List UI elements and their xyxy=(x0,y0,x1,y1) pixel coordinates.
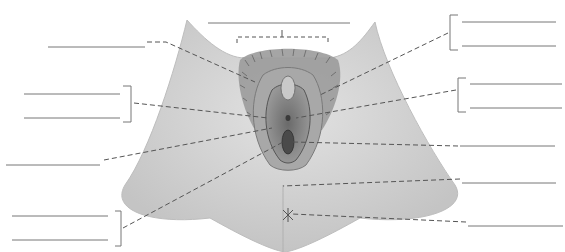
diagram-illustration xyxy=(0,0,565,252)
vaginal-opening xyxy=(282,130,294,154)
anatomy-diagram xyxy=(0,0,565,252)
urethral-opening xyxy=(286,115,291,121)
clitoris xyxy=(281,76,295,100)
